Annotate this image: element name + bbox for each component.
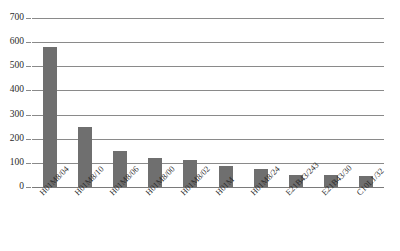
gridline <box>32 66 384 67</box>
gridline <box>32 115 384 116</box>
bar-chart: 0100200300400500600700 H01M8/04H01M8/10H… <box>0 0 400 251</box>
x-axis-labels: H01M8/04H01M8/10H01M8/06H01M8/00H01M8/02… <box>32 189 384 251</box>
y-tick-mark <box>26 115 31 116</box>
y-axis: 0100200300400500600700 <box>0 0 32 251</box>
y-tick-label: 300 <box>10 110 24 120</box>
gridline <box>32 42 384 43</box>
y-tick-mark <box>26 18 31 19</box>
x-tick-label: E21B43/30 <box>320 191 326 197</box>
x-tick-label: H01M8/24 <box>249 191 255 197</box>
y-tick-label: 400 <box>10 85 24 95</box>
x-tick-label: H01M8/04 <box>38 191 44 197</box>
bar <box>43 47 57 187</box>
y-tick-label: 100 <box>10 158 24 168</box>
y-tick-label: 0 <box>19 182 24 192</box>
plot-area <box>32 18 384 187</box>
x-tick-label: H01M <box>214 191 220 197</box>
y-tick-mark <box>26 187 31 188</box>
y-tick-mark <box>26 42 31 43</box>
gridline <box>32 90 384 91</box>
x-tick-label: H01M8/10 <box>73 191 79 197</box>
y-tick-mark <box>26 90 31 91</box>
y-tick-mark <box>26 163 31 164</box>
x-tick-label: H01M8/02 <box>179 191 185 197</box>
x-tick-label: E21B43/243 <box>284 191 290 197</box>
y-tick-mark <box>26 66 31 67</box>
x-tick-label: H01M8/06 <box>108 191 114 197</box>
y-tick-label: 600 <box>10 37 24 47</box>
x-tick-label: H01M8/00 <box>144 191 150 197</box>
y-tick-mark <box>26 139 31 140</box>
y-tick-label: 200 <box>10 134 24 144</box>
gridline <box>32 18 384 19</box>
y-tick-label: 500 <box>10 61 24 71</box>
x-tick-label: C10L1/32 <box>355 191 361 197</box>
y-tick-label: 700 <box>10 13 24 23</box>
